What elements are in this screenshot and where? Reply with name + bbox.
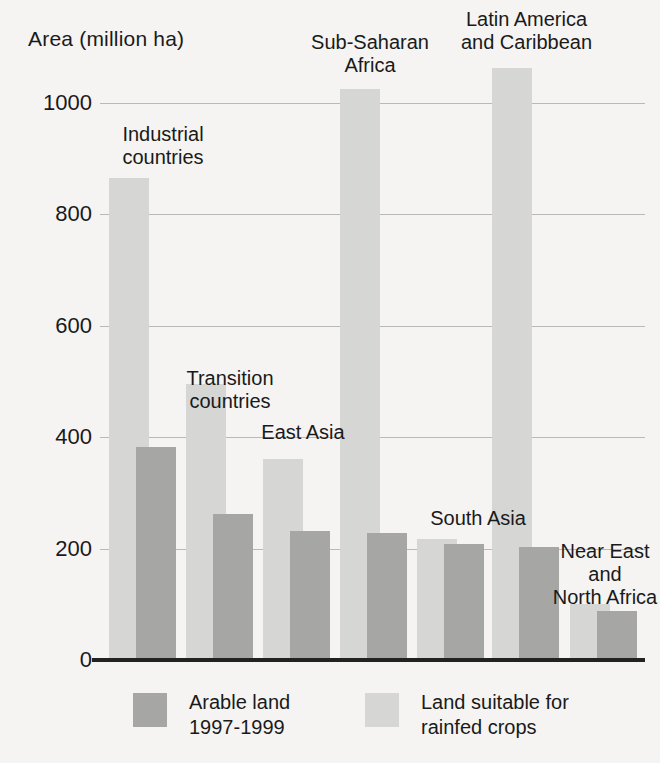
bar-arable-land-east-asia [290,531,330,660]
y-tick-label: 600 [20,315,92,337]
bar-group-south-asia [417,60,484,661]
y-tick-label: 400 [20,426,92,448]
category-label-south-asia: South Asia [398,507,558,530]
y-tick-label: 1000 [20,92,92,114]
bar-arable-land-transition [213,514,253,660]
category-label-east-asia: East Asia [228,421,378,444]
axis-baseline [92,658,645,662]
bar-group-east-asia [263,60,330,661]
y-tick-label: 800 [20,203,92,225]
legend: Arable land 1997-1999 Land suitable for … [0,690,660,763]
category-label-latin-america: Latin America and Caribbean [434,8,619,54]
bar-arable-land-near-east [597,611,637,660]
category-label-transition: Transition countries [150,367,310,413]
y-tick: 600 [8,315,92,337]
legend-label-arable-land: Arable land 1997-1999 [189,690,290,740]
bar-arable-land-industrial [136,447,176,660]
y-tick: 0 [8,649,92,671]
legend-swatch-arable-land [133,693,167,727]
y-axis-title: Area (million ha) [28,27,184,51]
bar-group-sub-saharan [340,60,407,661]
y-tick-label: 0 [20,649,92,671]
bar-arable-land-south-asia [444,544,484,660]
y-tick: 400 [8,426,92,448]
category-label-near-east: Near East and North Africa [540,540,660,609]
bar-arable-land-sub-saharan [367,533,407,660]
y-tick-label: 200 [20,538,92,560]
bar-chart: Area (million ha) 10008006004002000 Indu… [0,0,660,763]
y-tick: 200 [8,538,92,560]
legend-swatch-land-suitable [365,693,399,727]
category-label-sub-saharan: Sub-Saharan Africa [285,31,455,77]
y-tick: 800 [8,203,92,225]
y-tick: 1000 [8,92,92,114]
legend-label-land-suitable: Land suitable for rainfed crops [421,690,569,740]
category-label-industrial: Industrial countries [88,123,238,169]
